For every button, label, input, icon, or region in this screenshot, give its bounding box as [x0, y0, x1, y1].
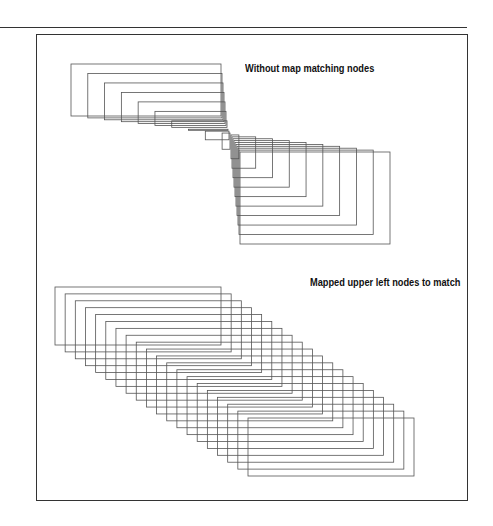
interpolated-rect — [105, 83, 223, 120]
interpolated-rect — [177, 370, 343, 428]
interpolated-rect — [126, 335, 292, 393]
interpolated-rect — [116, 328, 282, 386]
caption-without-map: Without map matching nodes — [245, 62, 374, 74]
interpolated-rect — [218, 397, 384, 455]
interpolated-rect — [240, 152, 390, 244]
interpolated-rect — [71, 64, 221, 116]
interpolated-rect — [235, 143, 306, 197]
panel-mapped-rects — [55, 287, 414, 476]
interpolated-rect — [207, 390, 373, 448]
interpolated-rect — [65, 294, 231, 352]
interpolated-rect — [228, 404, 394, 462]
interpolated-rect — [234, 141, 289, 188]
interpolated-rect — [248, 418, 414, 476]
caption-mapped: Mapped upper left nodes to match — [310, 276, 460, 288]
interpolated-rect — [238, 411, 404, 469]
interpolated-rect — [55, 287, 221, 345]
interpolated-rect — [136, 342, 302, 400]
interpolated-rect — [121, 92, 224, 121]
interpolated-rect — [237, 146, 340, 215]
interpolated-rect — [197, 384, 363, 442]
interpolated-rect — [85, 308, 251, 366]
interpolated-rect — [187, 377, 353, 435]
interpolated-rect — [189, 129, 228, 130]
interpolated-rect — [146, 349, 312, 407]
interpolated-rect — [75, 301, 241, 359]
interpolated-rect — [106, 321, 272, 379]
interpolated-rect — [138, 102, 225, 124]
interpolated-rect — [157, 356, 323, 414]
panel-without-map-rects — [71, 64, 390, 244]
interpolated-rect — [232, 137, 256, 168]
interpolated-rect — [167, 363, 333, 421]
interpolated-rect — [96, 315, 262, 373]
interpolated-rect — [205, 131, 229, 140]
interpolation-diagram — [0, 0, 493, 526]
